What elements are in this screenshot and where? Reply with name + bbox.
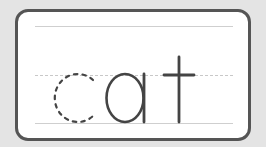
letter-c-dotted bbox=[55, 74, 93, 122]
letter-a bbox=[107, 74, 145, 122]
letter-t bbox=[164, 57, 194, 122]
word-glyphs bbox=[0, 0, 266, 147]
